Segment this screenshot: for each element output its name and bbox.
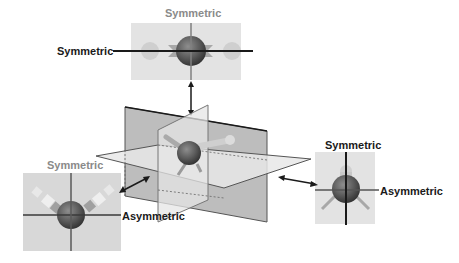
top-projection-panel: [113, 23, 253, 80]
top-double-arrow: [188, 81, 194, 116]
symmetry-diagram: [0, 0, 459, 263]
left-panel-side-label: Asymmetric: [122, 210, 185, 222]
right-double-arrow: [278, 175, 318, 187]
symmetry-planes: [96, 105, 311, 222]
right-projection-panel: [315, 152, 379, 225]
top-panel-side-label: Symmetric: [57, 45, 113, 57]
left-projection-panel: [23, 173, 121, 251]
right-panel-title: Symmetric: [325, 139, 381, 151]
left-panel-title: Symmetric: [47, 159, 103, 171]
top-panel-title: Symmetric: [165, 7, 221, 19]
right-panel-side-label: Asymmetric: [380, 185, 443, 197]
